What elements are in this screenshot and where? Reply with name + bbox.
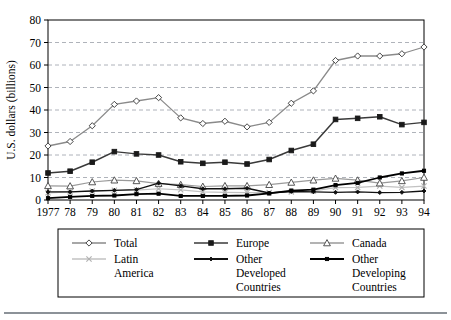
x-tick-label-88: 88 xyxy=(286,206,298,218)
marker-europe-83 xyxy=(178,159,183,164)
marker-other-developing-countries-91 xyxy=(356,181,359,184)
x-tick-label-93: 93 xyxy=(396,206,408,218)
legend-label-text: Developing xyxy=(352,267,406,280)
marker-europe-89 xyxy=(311,142,316,147)
marker-other-developing-countries-94 xyxy=(422,169,425,172)
x-tick-label-92: 92 xyxy=(374,206,386,218)
legend-label-text: Other xyxy=(236,253,262,265)
legend-label-text: Total xyxy=(114,237,137,249)
marker-other-developing-countries-80 xyxy=(113,194,116,197)
marker-europe-93 xyxy=(400,122,405,127)
legend-label-text: Canada xyxy=(352,237,386,249)
x-tick-label-82: 82 xyxy=(153,206,165,218)
line-chart: 01020304050607080 1977787980818283848586… xyxy=(0,0,451,320)
x-tick-label-80: 80 xyxy=(109,206,121,218)
x-tick-label-78: 78 xyxy=(64,206,76,218)
x-tick-label-81: 81 xyxy=(131,206,143,218)
marker-other-developing-countries-82 xyxy=(157,192,160,195)
marker-europe-79 xyxy=(90,160,95,165)
legend-label-text: Latin xyxy=(114,253,139,265)
x-tick-label-91: 91 xyxy=(352,206,364,218)
legend-label-text: Other xyxy=(352,253,378,265)
marker-other-developing-countries-81 xyxy=(135,193,138,196)
y-tick-label-0: 0 xyxy=(35,194,41,206)
x-tick-label-89: 89 xyxy=(308,206,320,218)
legend-marker xyxy=(325,257,328,260)
legend-label-text: Europe xyxy=(236,237,269,250)
marker-other-developing-countries-88 xyxy=(290,189,293,192)
marker-other-developing-countries-92 xyxy=(378,176,381,179)
y-tick-label-80: 80 xyxy=(30,14,42,26)
y-tick-label-20: 20 xyxy=(30,149,42,161)
y-tick-label-30: 30 xyxy=(30,127,42,139)
marker-other-developing-countries-93 xyxy=(400,172,403,175)
marker-europe-85 xyxy=(223,160,228,165)
x-tick-label-94: 94 xyxy=(418,206,430,218)
marker-europe-87 xyxy=(267,157,272,162)
x-tick-label-84: 84 xyxy=(197,206,209,218)
marker-europe-92 xyxy=(377,114,382,119)
marker-europe-94 xyxy=(422,120,427,125)
chart-legend[interactable]: TotalEuropeCanadaLatinAmericaOtherDevelo… xyxy=(58,229,424,297)
marker-europe-88 xyxy=(289,148,294,153)
y-tick-label-40: 40 xyxy=(30,104,42,116)
x-tick-label-86: 86 xyxy=(241,206,253,218)
legend-label-text: Countries xyxy=(352,281,397,293)
y-tick-label-60: 60 xyxy=(30,59,42,71)
legend-label-text: Developed xyxy=(236,267,286,280)
x-tick-label-83: 83 xyxy=(175,206,187,218)
x-tick-label-90: 90 xyxy=(330,206,342,218)
legend-label-text: America xyxy=(114,267,154,279)
marker-other-developing-countries-78 xyxy=(69,195,72,198)
y-tick-label-70: 70 xyxy=(30,37,42,49)
chart-figure: 01020304050607080 1977787980818283848586… xyxy=(0,0,451,320)
x-tick-label-79: 79 xyxy=(86,206,98,218)
marker-europe-90 xyxy=(333,117,338,122)
marker-europe-82 xyxy=(156,153,161,158)
y-tick-label-10: 10 xyxy=(30,172,42,184)
marker-europe-86 xyxy=(245,162,250,167)
x-tick-label-85: 85 xyxy=(219,206,231,218)
y-axis-ticks: 01020304050607080 xyxy=(30,14,49,206)
marker-europe-91 xyxy=(355,116,360,121)
marker-other-developing-countries-84 xyxy=(201,194,204,197)
legend-marker xyxy=(209,241,214,246)
marker-other-developing-countries-90 xyxy=(334,184,337,187)
marker-other-developing-countries-83 xyxy=(179,194,182,197)
marker-europe-1977 xyxy=(46,171,51,176)
marker-other-developing-countries-89 xyxy=(312,188,315,191)
marker-europe-78 xyxy=(68,169,73,174)
marker-europe-81 xyxy=(134,152,139,157)
marker-other-developing-countries-87 xyxy=(268,192,271,195)
y-axis-title: U.S. dollars (billions) xyxy=(5,60,18,160)
x-tick-label-87: 87 xyxy=(263,206,275,218)
marker-other-developing-countries-79 xyxy=(91,194,94,197)
marker-europe-84 xyxy=(201,161,206,166)
marker-other-developing-countries-1977 xyxy=(46,197,49,200)
marker-europe-80 xyxy=(112,149,117,154)
y-tick-label-50: 50 xyxy=(30,82,42,94)
marker-other-developing-countries-86 xyxy=(245,194,248,197)
legend-label-text: Countries xyxy=(236,281,281,293)
marker-other-developing-countries-85 xyxy=(223,194,226,197)
x-tick-label-1977: 1977 xyxy=(37,206,60,218)
